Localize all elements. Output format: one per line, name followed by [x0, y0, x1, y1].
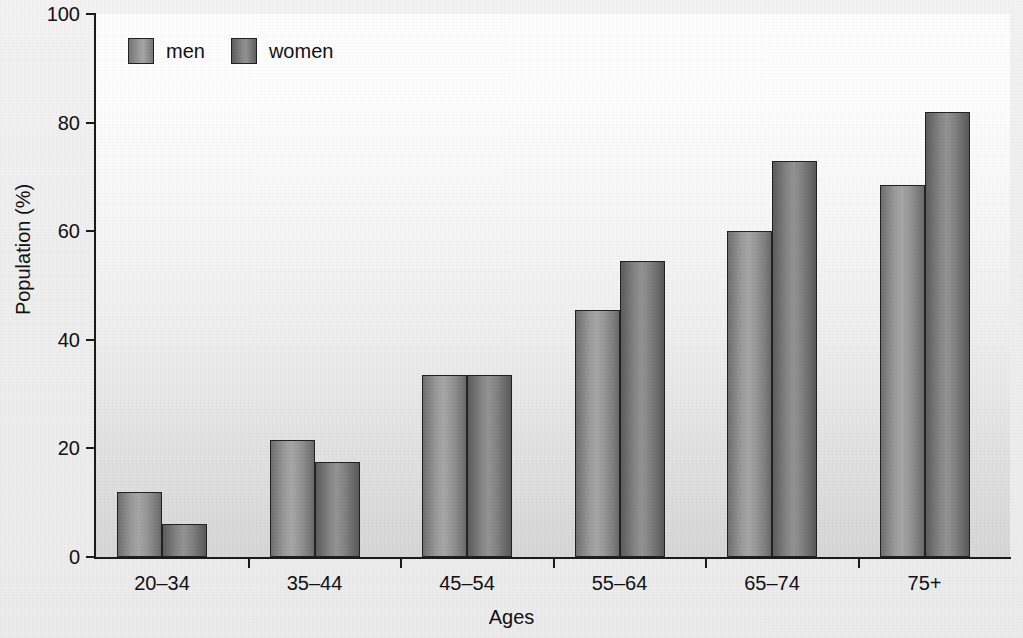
- legend-entry-women: women: [231, 38, 333, 64]
- x-axis-tick: [858, 558, 860, 568]
- y-axis-tick: [86, 447, 95, 449]
- bar-women-65–74: [772, 161, 817, 557]
- chart-legend: men women: [128, 38, 333, 64]
- x-axis-tick: [400, 558, 402, 568]
- bar-men-65–74: [727, 231, 772, 557]
- y-axis-tick-label: 100: [18, 4, 80, 24]
- y-axis-tick: [86, 556, 95, 558]
- y-axis-tick: [86, 339, 95, 341]
- bar-women-75+: [925, 112, 970, 557]
- legend-swatch-women-icon: [231, 38, 257, 64]
- bar-men-45–54: [422, 375, 467, 557]
- legend-swatch-men-icon: [128, 38, 154, 64]
- bar-men-75+: [880, 185, 925, 557]
- x-axis-tick-label: 55–64: [540, 572, 700, 595]
- x-axis-tick: [553, 558, 555, 568]
- bar-men-55–64: [575, 310, 620, 557]
- x-axis-tick-label: 45–54: [387, 572, 547, 595]
- x-axis-tick-label: 75+: [845, 572, 1005, 595]
- x-axis-tick: [705, 558, 707, 568]
- y-axis-title: Population (%): [12, 135, 35, 365]
- bar-men-35–44: [270, 440, 315, 557]
- x-axis-tick-label: 20–34: [82, 572, 242, 595]
- x-axis-title: Ages: [0, 606, 1023, 629]
- bar-women-55–64: [620, 261, 665, 557]
- legend-label-women: women: [269, 40, 333, 63]
- y-axis-line: [94, 13, 96, 559]
- legend-entry-men: men: [128, 38, 205, 64]
- y-axis-tick-label: 80: [18, 113, 80, 133]
- y-axis-tick-label: 0: [18, 547, 80, 567]
- plot-area: [95, 14, 1010, 557]
- bar-men-20–34: [117, 492, 162, 557]
- y-axis-tick: [86, 230, 95, 232]
- chart-figure: 020406080100 Population (%) 20–3435–4445…: [0, 0, 1023, 638]
- y-axis-tick: [86, 122, 95, 124]
- x-axis-tick: [248, 558, 250, 568]
- x-axis-tick-label: 35–44: [235, 572, 395, 595]
- x-axis-tick-label: 65–74: [692, 572, 852, 595]
- bar-women-20–34: [162, 524, 207, 557]
- legend-label-men: men: [166, 40, 205, 63]
- bar-women-35–44: [315, 462, 360, 557]
- y-axis-tick-label: 20: [18, 438, 80, 458]
- y-axis-tick: [86, 13, 95, 15]
- bar-women-45–54: [467, 375, 512, 557]
